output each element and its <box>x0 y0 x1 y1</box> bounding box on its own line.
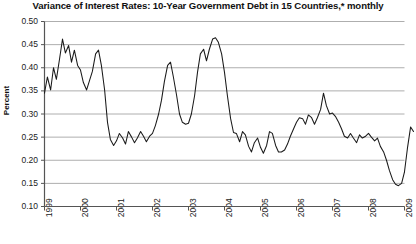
series-line-1 <box>405 127 414 172</box>
chart-figure: Variance of Interest Rates: 10-Year Gove… <box>0 0 416 244</box>
series-line-0 <box>45 38 405 186</box>
x-axis-ticks <box>45 207 405 211</box>
gridlines <box>45 22 405 207</box>
plot-area <box>0 0 416 244</box>
data-series <box>45 38 414 186</box>
